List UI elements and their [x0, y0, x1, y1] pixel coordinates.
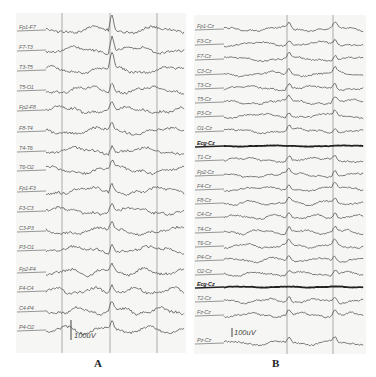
eeg-trace: [46, 263, 184, 277]
eeg-trace: [46, 183, 184, 195]
channel-label: P3-Cz: [197, 110, 211, 116]
eeg-trace: [46, 285, 184, 295]
channel-label: F8-Cz: [197, 197, 211, 203]
channel-label: T4-T6: [19, 145, 33, 151]
scale-bar-label-b: 100uV: [234, 328, 256, 337]
eeg-trace: [224, 168, 363, 178]
eeg-trace: [46, 122, 184, 135]
eeg-trace: [224, 197, 363, 206]
channel-label: T6-O2: [19, 164, 34, 170]
eeg-trace: [224, 66, 363, 76]
channel-label: T5-O1: [19, 84, 34, 90]
eeg-trace: [224, 53, 363, 62]
channel-label: P4-O2: [19, 324, 34, 330]
channel-label: Fp2-F8: [19, 104, 36, 110]
channel-label: Fp1-Cz: [197, 23, 214, 29]
eeg-trace: [224, 239, 363, 249]
eeg-trace: [224, 271, 363, 277]
panel-caption-a: A: [94, 357, 102, 369]
eeg-trace: [224, 156, 363, 163]
eeg-trace: [46, 321, 184, 335]
channel-label: T3-T5: [19, 64, 33, 70]
eeg-trace: [224, 125, 363, 134]
eeg-trace: [46, 244, 184, 254]
channel-label: O2-Cz: [197, 268, 212, 274]
channel-label: F4-C4: [19, 285, 33, 291]
eeg-trace: [224, 95, 363, 105]
channel-label: C4-Cz: [197, 211, 212, 217]
eeg-trace: [224, 297, 363, 304]
eeg-trace: [46, 36, 184, 55]
eeg-trace: [224, 337, 363, 346]
eeg-trace: [224, 182, 363, 191]
channel-label: T2-Cz: [197, 295, 211, 301]
channel-label: F7-T3: [19, 44, 33, 50]
channel-label: Fp2-F4: [19, 266, 36, 272]
channel-label: T5-Cz: [197, 96, 211, 102]
eeg-trace: [224, 213, 363, 220]
eeg-trace: [224, 256, 363, 263]
channel-label: Pz-Cz: [197, 337, 211, 343]
channel-label: F4-Cz: [197, 183, 211, 189]
eeg-traces-b: [194, 15, 366, 354]
channel-label: Fp1-F7: [19, 24, 36, 30]
channel-label: F3-C3: [19, 205, 33, 211]
eeg-trace: [224, 83, 363, 90]
channel-label: P4-Cz: [197, 254, 211, 260]
eeg-traces-a: [16, 13, 186, 353]
channel-label: C3-Cz: [197, 68, 212, 74]
channel-label: F7-Cz: [197, 53, 211, 59]
eeg-trace: [224, 40, 363, 48]
channel-label: P3-O1: [19, 244, 34, 250]
channel-label: C3-P3: [19, 225, 34, 231]
eeg-trace: [46, 102, 184, 114]
channel-label: Fz-Cz: [197, 309, 211, 315]
eeg-panel-a: Fp1-F7F7-T3T3-T5T5-O1Fp2-F8F8-T4T4-T6T6-…: [16, 13, 186, 353]
channel-label: T3-Cz: [197, 82, 211, 88]
eeg-trace: [224, 145, 363, 147]
channel-label: Ecg-Cz: [197, 281, 214, 287]
eeg-trace: [46, 204, 184, 216]
eeg-trace: [46, 146, 184, 156]
channel-label: Fp1-F3: [19, 185, 36, 191]
channel-label: C4-P4: [19, 305, 34, 311]
eeg-trace: [46, 221, 184, 235]
eeg-trace: [46, 160, 184, 174]
eeg-trace: [46, 83, 184, 94]
panel-caption-b: B: [272, 357, 279, 369]
eeg-trace: [224, 286, 363, 287]
channel-label: Fp2-Cz: [197, 169, 214, 175]
eeg-panel-b: Fp1-CzF3-CzF7-CzC3-CzT3-CzT5-CzP3-CzO1-C…: [194, 15, 366, 354]
channel-label: T1-Cz: [197, 154, 211, 160]
eeg-trace: [224, 310, 363, 318]
channel-label: Ecg-Cz: [197, 140, 214, 146]
eeg-trace: [46, 15, 184, 34]
eeg-trace: [224, 22, 363, 32]
channel-label: T4-Cz: [197, 226, 211, 232]
eeg-trace: [224, 226, 363, 235]
channel-label: O1-Cz: [197, 125, 212, 131]
scale-bar-label-a: 100uV: [74, 331, 96, 340]
eeg-trace: [46, 302, 184, 316]
channel-label: T6-Cz: [197, 240, 211, 246]
eeg-trace: [224, 110, 363, 119]
channel-label: F8-T4: [19, 125, 33, 131]
eeg-trace: [46, 52, 184, 74]
channel-label: F3-Cz: [197, 38, 211, 44]
